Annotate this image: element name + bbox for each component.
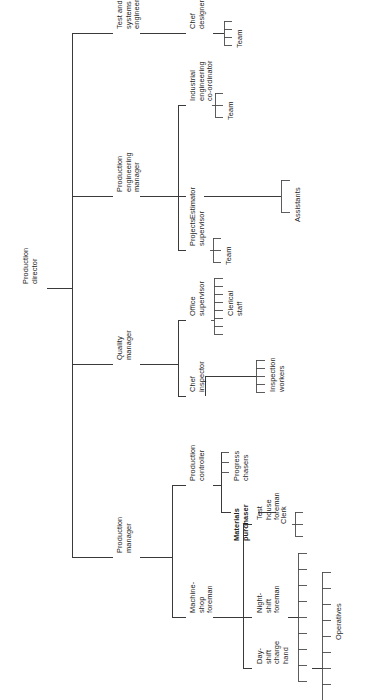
group-team-chef-designer: Team bbox=[236, 30, 245, 48]
node-materials-purchaser[interactable]: Materials purchaser bbox=[233, 504, 250, 541]
group-team-industrial-engineering: Team bbox=[227, 102, 236, 120]
node-chef-designer[interactable]: Chef designer bbox=[189, 0, 206, 29]
group-assistants: Assistants bbox=[294, 187, 303, 222]
node-production-engineering-manager[interactable]: Production engineering manager bbox=[116, 152, 142, 192]
group-inspection-workers: Inspection workers bbox=[269, 357, 286, 392]
node-test-and-systems-engineer[interactable]: Test and systems engineer bbox=[116, 0, 142, 29]
org-chart-connectors bbox=[0, 0, 371, 700]
node-test-house-foreman[interactable]: Test house foreman bbox=[256, 492, 282, 520]
node-chef-inspector[interactable]: Chef inspector bbox=[189, 361, 206, 392]
node-production-director[interactable]: Production director bbox=[22, 248, 39, 284]
group-operatives: Operatives bbox=[335, 603, 344, 640]
node-machine-shop-foreman[interactable]: Machine- shop foreman bbox=[189, 582, 215, 613]
node-production-manager[interactable]: Production manager bbox=[116, 517, 133, 553]
node-industrial-engineering-co-ordinator[interactable]: Industrial engineering co-ordinator bbox=[189, 60, 215, 101]
org-chart: Production director Test and systems eng… bbox=[0, 0, 371, 700]
node-quality-manager[interactable]: Quality manager bbox=[116, 330, 133, 360]
group-team-projects-supervisor: Team bbox=[225, 247, 234, 265]
node-projects-supervisor[interactable]: Projects supervisor bbox=[189, 211, 206, 246]
node-office-supervisor[interactable]: Office supervisor bbox=[189, 281, 206, 316]
node-day-shift-charge-hand[interactable]: Day- shift charge hand bbox=[256, 641, 290, 664]
node-production-controller[interactable]: Production controller bbox=[189, 445, 206, 481]
group-progress-chasers: Progress chasers bbox=[233, 451, 250, 481]
node-night-shift-foreman[interactable]: Night- shift foreman bbox=[256, 585, 282, 613]
connector-chef-inspector-to-inspection bbox=[205, 376, 256, 396]
group-clerical-staff: Clerical staff bbox=[227, 291, 244, 316]
